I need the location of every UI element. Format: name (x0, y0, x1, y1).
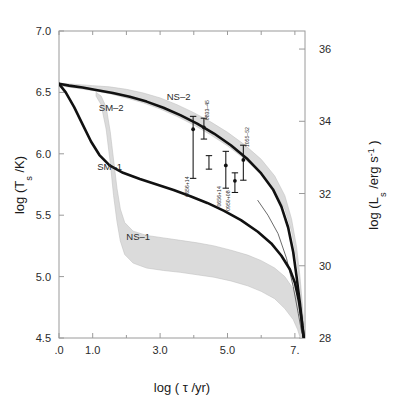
bottom-axis-ticks (59, 333, 295, 338)
top-axis-ticks (59, 31, 295, 35)
y-right-tick-label: 36 (319, 43, 331, 55)
x-axis-title: log ( τ /yr) (154, 380, 210, 395)
curve-label-sm-1: SM–1 (97, 161, 122, 172)
left-axis-ticks (59, 31, 64, 338)
y-right-title-main: log (L (366, 197, 381, 230)
y-right-title-exp: -1 (366, 148, 376, 156)
y-right-tick-label: 30 (319, 260, 331, 272)
y-right-tick-label: 32 (319, 188, 331, 200)
curve-sm-2 (59, 84, 304, 338)
point-label: 0656+14 (184, 176, 190, 196)
x-tick-label: .0 (54, 344, 63, 356)
point-label: 1055–52 (244, 127, 250, 147)
y-left-tick-label: 5.0 (36, 271, 51, 283)
point-label: 0656+14 (216, 186, 222, 206)
y-left-tick-label: 6.5 (36, 86, 51, 98)
y-left-title-tail: /K) (12, 156, 27, 176)
plot-svg: SM–2SM–1NS–2NS–1 0833–450656+140656+1409… (0, 0, 400, 414)
cooling-curve-figure: SM–2SM–1NS–2NS–1 0833–450656+140656+1409… (0, 0, 400, 414)
y-axis-left-title: log (Ts /K) (12, 156, 34, 214)
curve-label-ns-1: NS–1 (126, 231, 150, 242)
curve-label-ns-2: NS–2 (167, 91, 191, 102)
data-point (223, 151, 229, 188)
y-left-tick-label: 7.0 (36, 25, 51, 37)
y-left-title-main: log (T (12, 181, 27, 214)
model-curves (59, 84, 304, 338)
uncertainty-bands (59, 83, 304, 338)
x-tick-label: 1.0 (85, 344, 100, 356)
data-point (232, 173, 238, 193)
y-right-title-close: ) (366, 140, 381, 148)
data-point (206, 156, 212, 170)
band-ns-1 (96, 92, 304, 338)
y-left-tick-label: 4.5 (36, 332, 51, 344)
point-label: 0950+08 (225, 190, 231, 210)
y-axis-right-title: log (Ls /erg s-1 ) (366, 140, 388, 229)
band-ns-2 (59, 83, 304, 338)
x-tick-label: 7. (290, 344, 299, 356)
curve-label-sm-2: SM–2 (99, 102, 124, 113)
x-tick-label: 5.0 (220, 344, 235, 356)
point-label: 0833–45 (204, 100, 210, 120)
y-right-title-tail: /erg s (366, 156, 381, 193)
curve-sm-1 (59, 84, 304, 338)
y-left-tick-label: 6.0 (36, 148, 51, 160)
x-tick-label: 3.0 (152, 344, 167, 356)
y-right-tick-label: 28 (319, 332, 331, 344)
y-right-tick-label: 34 (319, 115, 331, 127)
y-left-tick-label: 5.5 (36, 209, 51, 221)
